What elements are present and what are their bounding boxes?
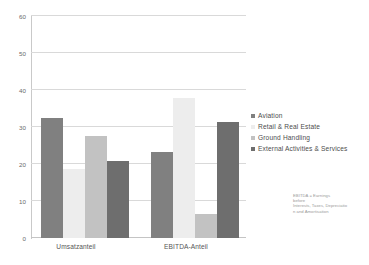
bar — [195, 214, 217, 238]
legend-label: Retail & Real Estate — [258, 123, 320, 130]
legend-item-3[interactable]: External Activities & Services — [251, 143, 369, 154]
bar — [151, 152, 173, 238]
legend-swatch-icon — [251, 147, 255, 151]
y-tick-label-50: 50 — [4, 51, 26, 57]
bar — [41, 118, 63, 238]
y-axis-tick-labels: 0102030405060 — [0, 16, 26, 239]
y-tick-label-60: 60 — [4, 14, 26, 20]
bar — [107, 161, 129, 238]
legend-label: Ground Handling — [258, 134, 310, 141]
legend-swatch-icon — [251, 125, 255, 129]
legend-item-2[interactable]: Ground Handling — [251, 132, 369, 143]
y-tick-label-30: 30 — [4, 125, 26, 131]
bar — [173, 98, 195, 238]
chart-legend: AviationRetail & Real EstateGround Handl… — [251, 110, 369, 154]
legend-swatch-icon — [251, 136, 255, 140]
y-tick-label-10: 10 — [4, 199, 26, 205]
bar — [217, 122, 239, 238]
bar-group-umsatzanteil — [41, 16, 129, 238]
plot-area — [31, 16, 246, 238]
legend-item-1[interactable]: Retail & Real Estate — [251, 121, 369, 132]
bar-group-ebitda-anteil — [151, 16, 239, 238]
y-tick-label-40: 40 — [4, 88, 26, 94]
legend-label: Aviation — [258, 112, 283, 119]
footnote-ebitda-definition: EBITDA = EarningsbeforeInterests, Taxes,… — [293, 193, 367, 214]
bar — [63, 169, 85, 238]
x-axis-label-ebitda-anteil: EBITDA-Anteil — [126, 243, 246, 251]
bar-chart: 0102030405060 Umsatzanteil EBITDA-Anteil… — [0, 0, 369, 265]
x-axis-label-umsatzanteil: Umsatzanteil — [16, 243, 136, 251]
y-tick-label-0: 0 — [4, 236, 26, 242]
footnote-line-3: n and Amortisation — [293, 209, 367, 214]
legend-label: External Activities & Services — [258, 145, 348, 152]
legend-item-0[interactable]: Aviation — [251, 110, 369, 121]
y-tick-label-20: 20 — [4, 162, 26, 168]
legend-swatch-icon — [251, 114, 255, 118]
bar — [85, 136, 107, 238]
